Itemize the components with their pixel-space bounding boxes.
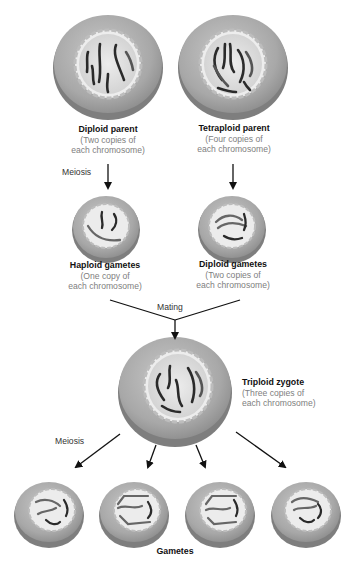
node-subtitle: (Two copies of — [180, 270, 286, 281]
triploid-zygote-cell — [118, 337, 232, 447]
tetraploid-parent-cell — [178, 15, 288, 120]
gamete-cell-1 — [14, 482, 84, 548]
node-title: Gametes — [125, 546, 225, 557]
gamete-cell-3 — [185, 482, 255, 548]
node-triploid-zygote: Triploid zygote (Three copies of each ch… — [242, 377, 350, 409]
gamete-cell-2 — [99, 482, 169, 548]
node-subtitle: (Three copies of — [242, 388, 350, 399]
node-subtitle: each chromosome) — [181, 144, 287, 155]
node-gametes: Gametes — [125, 546, 225, 557]
arrow-zygote-gamete-2 — [148, 445, 156, 467]
node-tetraploid-parent: Tetraploid parent (Four copies of each c… — [181, 123, 287, 155]
node-subtitle: (Two copies of — [55, 135, 161, 146]
node-subtitle: each chromosome) — [52, 281, 158, 292]
mating-line-right — [175, 300, 240, 320]
node-diploid-parent: Diploid parent (Two copies of each chrom… — [55, 124, 161, 156]
node-diploid-gametes: Diploid gametes (Two copies of each chro… — [180, 259, 286, 291]
node-subtitle: each chromosome) — [242, 398, 350, 409]
diploid-parent-cell — [53, 15, 163, 120]
node-subtitle: each chromosome) — [180, 280, 286, 291]
edge-label-mating: Mating — [157, 302, 183, 312]
node-title: Diploid gametes — [180, 259, 286, 270]
gamete-cell-4 — [271, 482, 341, 548]
node-title: Diploid parent — [55, 124, 161, 135]
arrow-zygote-gamete-4 — [236, 432, 285, 467]
node-title: Triploid zygote — [242, 377, 350, 388]
diploid-gamete-cell — [198, 196, 266, 263]
node-haploid-gametes: Haploid gametes (One copy of each chromo… — [52, 260, 158, 292]
edge-label-meiosis-top: Meiosis — [62, 167, 91, 177]
arrow-zygote-gamete-3 — [196, 445, 205, 467]
haploid-gamete-cell — [72, 196, 140, 263]
edge-label-meiosis-bottom: Meiosis — [55, 436, 84, 446]
node-subtitle: (Four copies of — [181, 134, 287, 145]
node-title: Tetraploid parent — [181, 123, 287, 134]
node-subtitle: each chromosome) — [55, 145, 161, 156]
node-subtitle: (One copy of — [52, 271, 158, 282]
node-title: Haploid gametes — [52, 260, 158, 271]
